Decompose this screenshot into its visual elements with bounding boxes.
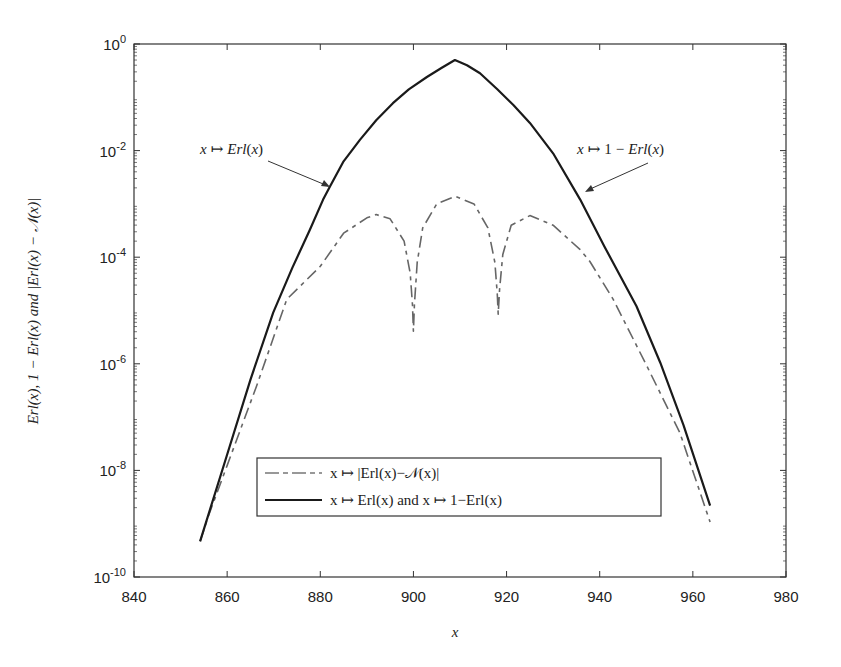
chart: 840860880900920940960980 10010-210-410-6…: [0, 0, 841, 667]
legend-item-2-label: x ↦ Erl(x) and x ↦ 1−Erl(x): [330, 492, 502, 509]
legend-item-1-label: x ↦ |Erl(x)−𝒩(x)|: [330, 465, 439, 482]
x-tick-label: 880: [308, 588, 333, 605]
x-tick-label: 920: [494, 588, 519, 605]
x-axis-label: x: [451, 624, 459, 640]
x-tick-label: 940: [587, 588, 612, 605]
annotation-one-minus-erl-text: x↦1−Erl(x): [576, 141, 664, 158]
x-tick-label: 860: [215, 588, 240, 605]
x-tick-label: 840: [121, 588, 146, 605]
x-tick-label: 900: [401, 588, 426, 605]
x-tick-label: 960: [680, 588, 705, 605]
x-tick-label: 980: [773, 588, 798, 605]
legend: x ↦ |Erl(x)−𝒩(x)| x ↦ Erl(x) and x ↦ 1−E…: [257, 458, 661, 516]
y-axis-label: Erl(x), 1 − Erl(x) and |Erl(x) − 𝒩(x)|: [25, 198, 42, 426]
